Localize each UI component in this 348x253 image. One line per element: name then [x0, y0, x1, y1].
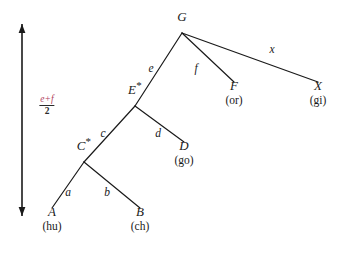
- tree-node-label: A: [42, 205, 61, 218]
- tree-node-g[interactable]: G: [177, 10, 187, 23]
- edge-line-group: [52, 33, 318, 208]
- edge-label-a: a: [65, 187, 71, 199]
- derivation-tree-figure: GE*F(or)X(gi)C*D(go)A(hu)B(ch) efxcdab e…: [0, 0, 348, 253]
- edge-label-x: x: [269, 44, 274, 56]
- time-axis-label: e+f 2: [39, 94, 54, 116]
- tree-edge-x: [182, 33, 318, 82]
- time-axis-group: [19, 24, 26, 216]
- tree-node-gloss: (go): [174, 154, 193, 167]
- tree-edge-b: [84, 162, 140, 208]
- tree-edge-a: [52, 162, 84, 208]
- tree-node-gloss: (or): [225, 94, 242, 107]
- tree-node-a[interactable]: A(hu): [42, 205, 61, 233]
- edge-label-f: f: [194, 63, 197, 75]
- tree-node-label: E*: [128, 83, 142, 96]
- tree-node-label: C*: [77, 139, 92, 152]
- reconstructed-star-icon: *: [136, 79, 142, 91]
- tree-node-gloss: (ch): [131, 220, 150, 233]
- time-axis-arrowhead-down: [19, 207, 26, 216]
- edge-label-b: b: [104, 187, 110, 199]
- axis-label-numerator: e+f: [39, 94, 54, 105]
- tree-node-gloss: (gi): [310, 94, 327, 107]
- tree-node-e[interactable]: E*: [128, 83, 142, 96]
- tree-edge-c: [84, 106, 135, 162]
- tree-node-b[interactable]: B(ch): [131, 205, 150, 233]
- tree-node-d[interactable]: D(go): [174, 139, 193, 167]
- tree-node-label: B: [131, 205, 150, 218]
- tree-node-x[interactable]: X(gi): [310, 79, 327, 107]
- tree-edge-e: [135, 33, 182, 106]
- edge-label-e: e: [148, 63, 153, 75]
- tree-node-label: G: [177, 10, 187, 23]
- axis-label-denominator: 2: [39, 106, 54, 116]
- tree-edge-f: [182, 33, 234, 82]
- tree-node-f[interactable]: F(or): [225, 79, 242, 107]
- edge-label-d: d: [155, 128, 161, 140]
- tree-node-c[interactable]: C*: [77, 139, 92, 152]
- edge-label-c: c: [100, 128, 105, 140]
- time-axis-arrowhead-up: [19, 24, 26, 33]
- reconstructed-star-icon: *: [86, 135, 92, 147]
- tree-node-label: X: [310, 79, 327, 92]
- tree-node-gloss: (hu): [42, 220, 61, 233]
- tree-node-label: F: [225, 79, 242, 92]
- tree-node-label: D: [174, 139, 193, 152]
